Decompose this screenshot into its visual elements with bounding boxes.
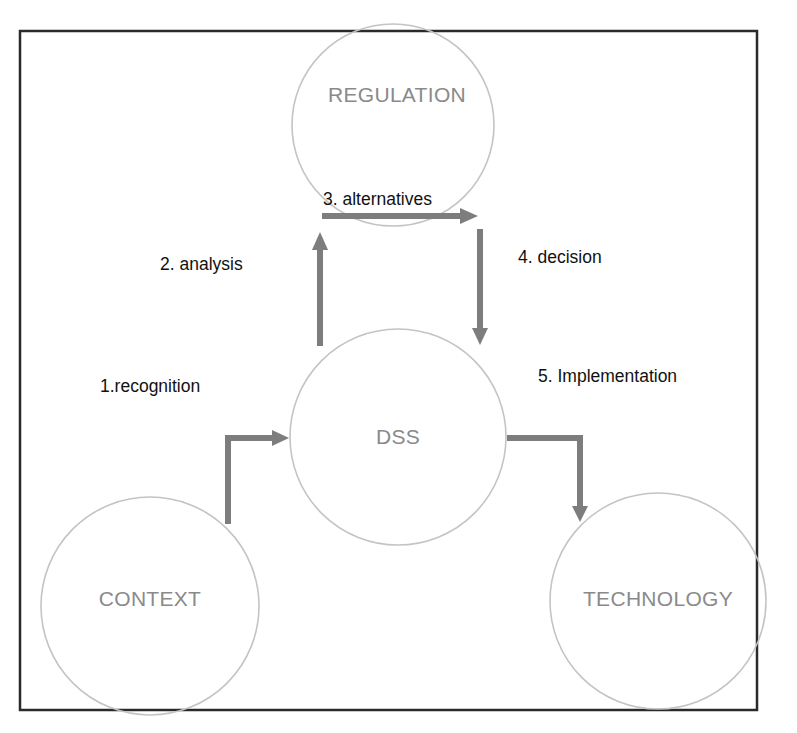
node-technology-label: TECHNOLOGY [583,587,733,610]
arrow-recognition-head-icon [272,430,289,446]
arrow-alternatives-head-icon [460,208,478,224]
node-context: CONTEXT [41,497,259,715]
edge-decision: 4. decision [472,229,602,345]
arrow-decision-head-icon [472,328,488,345]
edge-alternatives-label: 3. alternatives [323,189,432,209]
edge-recognition-label: 1.recognition [100,376,200,396]
edge-analysis: 2. analysis [160,232,328,346]
node-dss-label: DSS [376,425,420,448]
dss-process-diagram: REGULATION DSS CONTEXT TECHNOLOGY 1.reco… [0,0,797,733]
arrow-implementation-head-icon [572,506,588,522]
arrow-recognition-line [228,438,274,524]
node-context-label: CONTEXT [99,587,201,610]
arrow-analysis-head-icon [312,232,328,250]
arrow-implementation-line [507,438,580,508]
edge-recognition: 1.recognition [100,376,289,524]
edge-implementation: 5. Implementation [507,366,677,522]
edge-implementation-label: 5. Implementation [538,366,677,386]
node-regulation-label: REGULATION [328,83,466,106]
edge-analysis-label: 2. analysis [160,254,243,274]
edge-decision-label: 4. decision [518,247,602,267]
node-technology: TECHNOLOGY [550,493,766,709]
edge-alternatives: 3. alternatives [322,189,478,224]
node-dss: DSS [290,329,506,545]
